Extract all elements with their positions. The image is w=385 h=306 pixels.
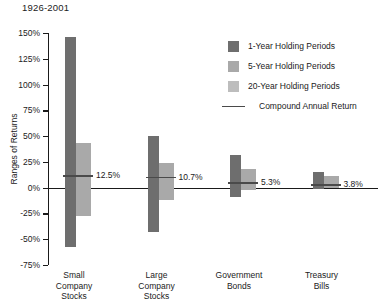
chart-legend: 1-Year Holding Periods5-Year Holding Per… [228, 38, 357, 118]
bar-1-year [148, 136, 159, 232]
compound-return-label: 5.3% [261, 177, 280, 187]
bar-5-year [76, 143, 91, 215]
y-tick-label: 0% [28, 183, 40, 193]
y-tick-label: -25% [20, 208, 40, 218]
bar-5-year [324, 176, 339, 187]
legend-swatch [228, 61, 239, 72]
bar-group: 12.5% [48, 33, 131, 265]
bar-5-year [159, 163, 174, 200]
y-tick-label: 75% [23, 105, 40, 115]
legend-label: Compound Annual Return [259, 101, 357, 111]
x-axis-label: TreasuryBills [305, 270, 338, 291]
legend-label: 1-Year Holding Periods [248, 41, 335, 51]
compound-return-line [63, 175, 93, 177]
legend-label: 5-Year Holding Periods [248, 61, 335, 71]
compound-return-line [311, 184, 341, 186]
legend-item: 20-Year Holding Periods [228, 78, 357, 94]
legend-label: 20-Year Holding Periods [248, 81, 340, 91]
returns-range-chart: 1926-2001 150%125%100%75%50%25%0%-25%-50… [0, 0, 385, 306]
y-tick-label: 50% [23, 131, 40, 141]
bar-group: 10.7% [131, 33, 214, 265]
compound-return-label: 12.5% [96, 170, 120, 180]
x-axis-label: GovernmentBonds [216, 270, 263, 291]
x-axis-label: SmallCompanyStocks [56, 270, 92, 302]
y-axis-title: Ranges of Returns [9, 114, 19, 185]
y-tick-label: 100% [18, 80, 40, 90]
y-tick-label: 150% [18, 28, 40, 38]
chart-title: 1926-2001 [22, 2, 69, 13]
legend-line-marker [228, 101, 239, 112]
legend-swatch [228, 41, 239, 52]
bar-1-year [313, 172, 324, 188]
y-tick-label: 25% [23, 157, 40, 167]
legend-item: 5-Year Holding Periods [228, 58, 357, 74]
y-tick [43, 265, 48, 266]
compound-return-line [146, 177, 176, 179]
legend-item: Compound Annual Return [228, 98, 357, 114]
y-tick-label: -50% [20, 234, 40, 244]
bar-5-year [241, 169, 256, 190]
compound-return-line [228, 182, 258, 184]
compound-return-label: 10.7% [179, 172, 203, 182]
legend-swatch [228, 81, 239, 92]
bar-1-year [230, 155, 241, 197]
compound-return-label: 3.8% [344, 179, 363, 189]
y-tick-label: 125% [18, 54, 40, 64]
legend-item: 1-Year Holding Periods [228, 38, 357, 54]
x-axis-label: LargeCompanyStocks [138, 270, 174, 302]
bar-1-year [65, 37, 76, 247]
y-tick-label: -75% [20, 260, 40, 270]
